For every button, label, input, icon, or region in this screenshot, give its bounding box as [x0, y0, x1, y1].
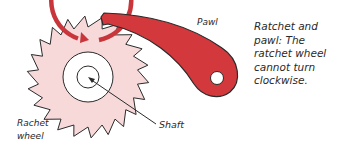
pawl-pivot-hole [211, 72, 224, 85]
caption: Ratchet and pawl: The ratchet wheel cann… [254, 20, 338, 88]
pawl-label: Pawl [197, 17, 218, 27]
ratchet-wheel-label: Rachet wheel [17, 117, 49, 143]
ratchet-wheel-label-line2: wheel [17, 130, 49, 143]
ratchet-wheel-label-line1: Rachet [17, 117, 49, 130]
shaft-label: Shaft [159, 119, 184, 130]
